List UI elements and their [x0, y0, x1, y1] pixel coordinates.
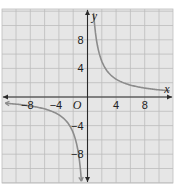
x-axis-label: x: [163, 82, 170, 96]
origin-label: O: [73, 98, 82, 112]
x-tick-label: −8: [21, 99, 34, 111]
x-tick-label: 4: [113, 99, 119, 111]
y-tick-label: 4: [77, 62, 83, 74]
y-tick-label: −4: [71, 120, 84, 132]
y-tick-label: −8: [71, 148, 84, 160]
y-tick-label: 8: [77, 34, 83, 46]
x-tick-label: −4: [50, 99, 63, 111]
hyperbola-chart: −8−44884−4−8Oxy: [0, 0, 178, 189]
x-tick-label: 8: [142, 99, 148, 111]
y-axis-label: y: [91, 9, 98, 23]
